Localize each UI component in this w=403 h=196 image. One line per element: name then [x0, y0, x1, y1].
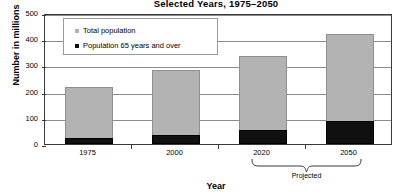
- legend: Total population Population 65 years and…: [63, 18, 218, 55]
- population-bar-chart: Selected Years, 1975–2050 Number in mill…: [0, 0, 403, 196]
- y-tick-label: 400: [4, 36, 38, 44]
- x-tick-label: 2000: [145, 149, 205, 157]
- bar-segment-total-population: [65, 87, 113, 144]
- x-axis-title: Year: [36, 181, 396, 191]
- bar-group: [326, 13, 374, 144]
- legend-item-label: Total population: [83, 26, 136, 35]
- x-tick-mark: [131, 145, 132, 149]
- bar-segment-population-65-and-over: [239, 130, 287, 144]
- square-gray-icon: [75, 29, 79, 33]
- y-tick-mark: [42, 41, 46, 42]
- x-tick-mark: [305, 145, 306, 149]
- x-tick-label: 2020: [232, 149, 292, 157]
- chart-title: Selected Years, 1975–2050: [36, 0, 396, 9]
- bar-segment-population-65-and-over: [326, 121, 374, 144]
- projected-label: Projected: [250, 172, 363, 180]
- y-tick-mark: [42, 146, 46, 147]
- y-tick-label: 200: [4, 89, 38, 97]
- legend-item-population-65-and-over: Population 65 years and over: [75, 42, 181, 50]
- bar-segment-population-65-and-over: [152, 135, 200, 144]
- y-tick-label: 300: [4, 62, 38, 70]
- projected-brace-icon: [250, 159, 363, 173]
- legend-item-total-population: Total population: [75, 27, 136, 35]
- y-tick-mark: [42, 120, 46, 121]
- x-tick-mark: [218, 145, 219, 149]
- bar-group: [239, 13, 287, 144]
- y-tick-label: 500: [4, 10, 38, 18]
- x-tick-label: 1975: [58, 149, 118, 157]
- y-tick-label: 0: [4, 141, 38, 149]
- x-tick-label: 2050: [319, 149, 379, 157]
- square-black-icon: [75, 44, 79, 48]
- y-tick-mark: [42, 94, 46, 95]
- y-tick-mark: [42, 67, 46, 68]
- y-tick-label: 100: [4, 115, 38, 123]
- bar-segment-population-65-and-over: [65, 138, 113, 144]
- bar-segment-total-population: [152, 70, 200, 144]
- y-tick-mark: [42, 15, 46, 16]
- brace-svg: [250, 159, 363, 173]
- legend-item-label: Population 65 years and over: [83, 41, 181, 50]
